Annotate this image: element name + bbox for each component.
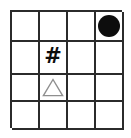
puzzle-canvas: #	[0, 0, 131, 138]
grid-cell-r3c1[interactable]	[12, 75, 40, 102]
grid-cell-r4c3[interactable]	[68, 102, 96, 130]
grid-cell-r1c1[interactable]	[12, 12, 40, 42]
grid-cell-r2c4[interactable]	[96, 42, 124, 75]
grid-cell-r3c4[interactable]	[96, 75, 124, 102]
grid-cell-r1c2[interactable]	[40, 12, 68, 42]
grid-cell-r2c3[interactable]	[68, 42, 96, 75]
grid-cell-r4c1[interactable]	[12, 102, 40, 130]
grid-cell-r3c3[interactable]	[68, 75, 96, 102]
grid-cell-r4c4[interactable]	[96, 102, 124, 130]
symbol-grid: #	[10, 10, 122, 128]
grid-cell-r2c1[interactable]	[12, 42, 40, 75]
grid-cell-r1c4[interactable]	[96, 12, 124, 42]
outline-triangle-icon	[42, 78, 64, 97]
hash-icon: #	[44, 46, 62, 67]
filled-circle-icon	[98, 15, 120, 37]
grid-cell-r4c2[interactable]	[40, 102, 68, 130]
grid-cell-r3c2[interactable]	[40, 75, 68, 102]
grid-cell-r2c2[interactable]: #	[40, 42, 68, 75]
grid-cell-r1c3[interactable]	[68, 12, 96, 42]
